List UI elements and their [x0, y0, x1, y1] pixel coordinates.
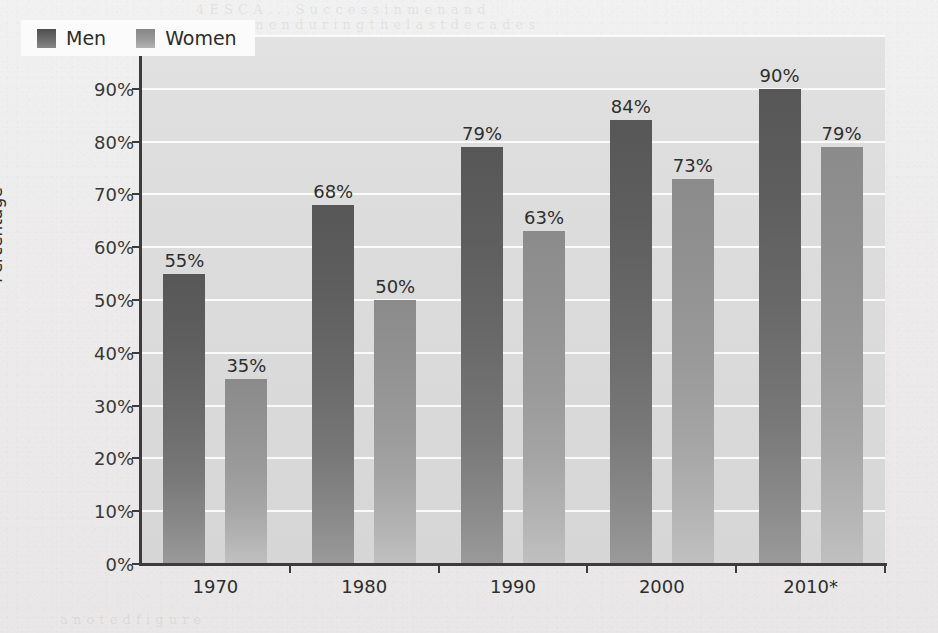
y-axis-tick-label: 20%	[62, 448, 134, 469]
bar-women-2010[interactable]: 79%	[821, 147, 863, 564]
bar-value-label: 55%	[164, 250, 204, 271]
bar-women-1980[interactable]: 50%	[374, 300, 416, 564]
bar-value-label: 79%	[462, 123, 502, 144]
x-axis-tick-mark	[289, 564, 291, 573]
women-legend-swatch-icon	[136, 29, 155, 48]
bar-value-label: 35%	[226, 355, 266, 376]
y-axis-tick-label: 80%	[62, 131, 134, 152]
bar-men-1990[interactable]: 79%	[461, 147, 503, 564]
y-axis-tick-label: 90%	[62, 78, 134, 99]
x-axis-tick-label-1990: 1990	[490, 576, 536, 597]
y-axis-tick-mark	[132, 299, 141, 301]
legend-label-men: Men	[66, 27, 106, 49]
bar-value-label: 68%	[313, 181, 353, 202]
bar-group: 55%35%	[141, 36, 290, 564]
bar-women-1990[interactable]: 63%	[523, 231, 565, 564]
x-axis-tick-mark	[735, 564, 737, 573]
bar-group: 79%63%	[439, 36, 588, 564]
y-axis-tick-label: 40%	[62, 342, 134, 363]
y-axis-title: Percentage	[0, 187, 6, 283]
y-axis-tick-mark	[132, 193, 141, 195]
y-axis-tick-label: 60%	[62, 237, 134, 258]
y-axis-tick-label: 10%	[62, 501, 134, 522]
y-axis-tick-label: 50%	[62, 290, 134, 311]
bar-men-2000[interactable]: 84%	[610, 120, 652, 564]
x-axis-tick-label-1970: 1970	[192, 576, 238, 597]
y-axis-tick-label: 30%	[62, 395, 134, 416]
y-axis-tick-mark	[132, 246, 141, 248]
y-axis-tick-mark	[132, 457, 141, 459]
bar-value-label: 90%	[760, 65, 800, 86]
y-axis-tick-mark	[132, 352, 141, 354]
bar-value-label: 73%	[673, 155, 713, 176]
bar-group: 90%79%	[736, 36, 885, 564]
legend-label-women: Women	[165, 27, 237, 49]
x-axis-tick-mark	[438, 564, 440, 573]
bar-group: 84%73%	[587, 36, 736, 564]
x-axis-tick-label-1980: 1980	[341, 576, 387, 597]
x-axis-tick-mark	[884, 564, 886, 573]
y-axis-tick-mark	[132, 510, 141, 512]
y-axis-tick-label: 0%	[62, 554, 134, 575]
x-axis-line	[139, 563, 887, 566]
y-axis-tick-mark	[132, 405, 141, 407]
bar-women-2000[interactable]: 73%	[672, 179, 714, 564]
bar-women-1970[interactable]: 35%	[225, 379, 267, 564]
chart-legend: Men Women	[21, 20, 255, 56]
bar-value-label: 50%	[375, 276, 415, 297]
bar-men-1970[interactable]: 55%	[163, 274, 205, 564]
x-axis-tick-label-2000: 2000	[639, 576, 685, 597]
bar-men-2010[interactable]: 90%	[759, 89, 801, 564]
y-axis-tick-label: 70%	[62, 184, 134, 205]
bar-value-label: 79%	[822, 123, 862, 144]
x-axis-tick-mark	[586, 564, 588, 573]
legend-entry-women[interactable]: Women	[136, 27, 237, 49]
y-axis-tick-mark	[132, 88, 141, 90]
grouped-bar-chart: 55%35%68%50%79%63%84%73%90%79% Percentag…	[0, 0, 938, 633]
y-axis-tick-mark	[132, 141, 141, 143]
bar-value-label: 63%	[524, 207, 564, 228]
x-axis-tick-label-2010: 2010*	[783, 576, 838, 597]
legend-entry-men[interactable]: Men	[37, 27, 106, 49]
bar-group: 68%50%	[290, 36, 439, 564]
bar-value-label: 84%	[611, 96, 651, 117]
bar-men-1980[interactable]: 68%	[312, 205, 354, 564]
plot-area: 55%35%68%50%79%63%84%73%90%79%	[141, 36, 885, 564]
y-axis-tick-mark	[132, 563, 141, 565]
men-legend-swatch-icon	[37, 29, 56, 48]
